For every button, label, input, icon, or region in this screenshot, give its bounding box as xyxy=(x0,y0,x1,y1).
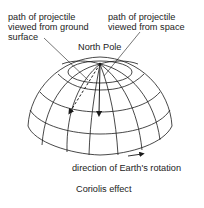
meridian xyxy=(100,64,118,155)
meridian xyxy=(89,64,100,155)
coriolis-diagram: path of projectile viewed from ground su… xyxy=(0,0,204,208)
leader-space xyxy=(104,32,140,76)
ground-path-label: path of projectile viewed from ground su… xyxy=(8,12,89,42)
space-path-label: path of projectile viewed from space xyxy=(108,12,185,32)
ground-path-label-line: path of projectile xyxy=(8,12,89,22)
ground-path-label-line: surface xyxy=(8,32,89,42)
space-path-label-line: path of projectile xyxy=(108,12,185,22)
north-pole-label: North Pole xyxy=(78,42,121,52)
space-path-arrow xyxy=(99,64,100,114)
ground-path-label-line: viewed from ground xyxy=(8,22,89,32)
diagram-caption: Coriolis effect xyxy=(76,184,132,194)
rotation-arrow xyxy=(128,154,142,156)
rotation-label: direction of Earth's rotation xyxy=(72,163,181,173)
latitude-2 xyxy=(40,92,160,112)
space-path-label-line: viewed from space xyxy=(108,22,185,32)
latitude-1 xyxy=(30,110,170,134)
equator-front xyxy=(28,126,172,155)
meridian xyxy=(42,64,100,145)
north-pole-point xyxy=(99,63,101,65)
